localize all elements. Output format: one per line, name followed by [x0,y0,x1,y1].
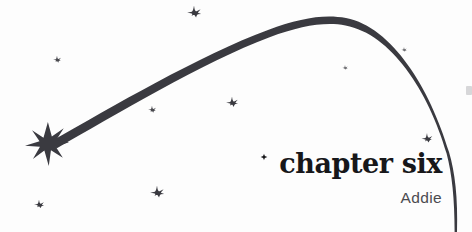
chapter-title-slide: chapter six Addie [0,0,472,232]
star-upper-left [53,56,61,63]
title-block: chapter six Addie [258,150,442,207]
page-title: chapter six [258,150,442,178]
star-bottom-center [150,186,164,198]
star-mid-left [148,106,156,113]
star-right [421,133,432,143]
star-mid-center [226,97,238,107]
star-top-center [187,6,201,18]
star-arc-right [401,47,407,52]
author-name: Addie [258,189,442,207]
star-upper-right [342,65,348,70]
star-bottom-left [34,200,44,209]
scan-artifact [466,86,472,95]
starburst [25,122,69,166]
